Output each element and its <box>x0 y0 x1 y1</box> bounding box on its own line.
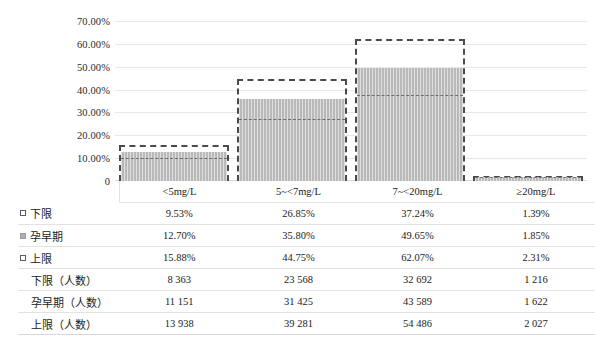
bar-group[interactable] <box>237 0 347 181</box>
data-table: <5mg/L5~<7mg/L7~<20mg/L≥20mg/L下限9.53%26.… <box>18 181 595 335</box>
legend-entry: 下限 <box>20 205 118 221</box>
row-label-cell: 下限（人数） <box>18 269 120 291</box>
legend-entry: 下限（人数） <box>20 272 118 288</box>
bar-value-fill <box>121 152 227 181</box>
table-cell: 49.65% <box>358 225 477 247</box>
bar-value-fill <box>239 99 345 181</box>
legend-entry: 孕早期（人数） <box>20 294 118 310</box>
row-label: 下限（人数） <box>31 272 97 288</box>
table-cell: 62.07% <box>358 247 477 269</box>
y-axis-tick-label: 40.00% <box>38 84 110 95</box>
table-row: 孕早期（人数）11 15131 42543 5891 622 <box>18 291 595 313</box>
table-cell: 23 568 <box>239 269 358 291</box>
table-cell: 1 622 <box>477 291 595 313</box>
table-cell: 15.88% <box>120 247 240 269</box>
row-label: 下限 <box>30 205 52 221</box>
row-label: 上限（人数） <box>31 316 97 332</box>
row-label: 上限 <box>30 250 52 266</box>
legend-swatch-icon <box>20 210 26 216</box>
table-cell: 32 692 <box>358 269 477 291</box>
row-label: 孕早期 <box>30 228 63 244</box>
table-cell: 44.75% <box>239 247 358 269</box>
y-axis-tick-label: 30.00% <box>38 107 110 118</box>
table-cell: 39 281 <box>239 313 358 335</box>
y-axis-tick-label: 60.00% <box>38 38 110 49</box>
row-label: 孕早期（人数） <box>31 294 108 310</box>
table-cell: 13 938 <box>120 313 240 335</box>
table-cell: 2.31% <box>477 247 595 269</box>
row-label-cell: 上限（人数） <box>18 313 120 335</box>
table-cell: 35.80% <box>239 225 358 247</box>
chart-plot-container: 70.00%60.00%50.00%40.00%30.00%20.00%10.0… <box>0 0 592 182</box>
table-cell: 31 425 <box>239 291 358 313</box>
legend-swatch-icon <box>20 233 26 239</box>
table-row: 上限（人数）13 93839 28154 4862 027 <box>18 313 595 335</box>
plot-area <box>115 0 587 181</box>
legend-entry: 上限 <box>20 250 118 266</box>
bar-lower-limit <box>121 158 227 159</box>
bar-lower-limit <box>239 119 345 120</box>
table-cell: 1 216 <box>477 269 595 291</box>
table-cell: 11 151 <box>120 291 240 313</box>
table-row: 下限（人数）8 36323 56832 6921 216 <box>18 269 595 291</box>
table-cell: 54 486 <box>358 313 477 335</box>
row-label-cell: 上限 <box>18 247 120 269</box>
legend-entry: 孕早期 <box>20 228 118 244</box>
row-label-cell: 下限 <box>18 203 120 225</box>
table-header-row: <5mg/L5~<7mg/L7~<20mg/L≥20mg/L <box>18 181 595 203</box>
y-axis-tick-label: 10.00% <box>38 153 110 164</box>
table-cell: 12.70% <box>120 225 240 247</box>
bar-group[interactable] <box>473 0 583 181</box>
column-header-1: <5mg/L <box>120 181 240 203</box>
y-axis-tick-label: 70.00% <box>38 16 110 27</box>
table-cell: 1.39% <box>477 203 595 225</box>
table-cell: 37.24% <box>358 203 477 225</box>
y-axis-tick-label: 20.00% <box>38 130 110 141</box>
table-cell: 43 589 <box>358 291 477 313</box>
table-row: 上限15.88%44.75%62.07%2.31% <box>18 247 595 269</box>
table-row: 下限9.53%26.85%37.24%1.39% <box>18 203 595 225</box>
row-label-cell: 孕早期 <box>18 225 120 247</box>
row-label-cell: 孕早期（人数） <box>18 291 120 313</box>
bar-group[interactable] <box>355 0 465 181</box>
table-row: 孕早期12.70%35.80%49.65%1.85% <box>18 225 595 247</box>
table-cell: 9.53% <box>120 203 240 225</box>
column-header-3: 7~<20mg/L <box>358 181 477 203</box>
data-table-container: <5mg/L5~<7mg/L7~<20mg/L≥20mg/L下限9.53%26.… <box>18 181 574 335</box>
bar-value-fill <box>357 68 463 181</box>
table-cell: 2 027 <box>477 313 595 335</box>
table-cell: 26.85% <box>239 203 358 225</box>
y-axis-tick-label: 50.00% <box>38 61 110 72</box>
bar-group[interactable] <box>119 0 229 181</box>
legend-entry: 上限（人数） <box>20 316 118 332</box>
column-header-2: 5~<7mg/L <box>239 181 358 203</box>
legend-swatch-icon <box>20 255 26 261</box>
bar-lower-limit <box>475 177 581 178</box>
bar-lower-limit <box>357 95 463 96</box>
table-cell: 1.85% <box>477 225 595 247</box>
y-axis: 70.00%60.00%50.00%40.00%30.00%20.00%10.0… <box>34 0 110 182</box>
table-cell: 8 363 <box>120 269 240 291</box>
column-header-4: ≥20mg/L <box>477 181 595 203</box>
table-corner-cell <box>18 181 120 203</box>
